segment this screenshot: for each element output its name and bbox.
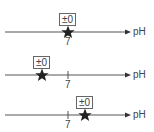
- change-badge-row-2: ±0: [33, 56, 50, 69]
- tick-label-7: 7: [65, 120, 71, 130]
- tick-label-7: 7: [65, 80, 71, 90]
- arrow-head-icon: [125, 73, 131, 78]
- ph-lines-graphic: [0, 0, 154, 132]
- change-badge-row-3: ±0: [76, 96, 93, 109]
- star-icon: [35, 69, 48, 82]
- ph-diagram: ±0 7 pH ±0 7 pH ±0 7 pH: [0, 0, 154, 132]
- axis-label-ph: pH: [133, 27, 146, 37]
- change-badge-row-1: ±0: [59, 13, 76, 26]
- axis-label-ph: pH: [133, 110, 146, 120]
- star-icon: [78, 109, 91, 122]
- tick-label-7: 7: [65, 37, 71, 47]
- arrow-head-icon: [125, 30, 131, 35]
- axis-label-ph: pH: [133, 70, 146, 80]
- arrow-head-icon: [125, 113, 131, 118]
